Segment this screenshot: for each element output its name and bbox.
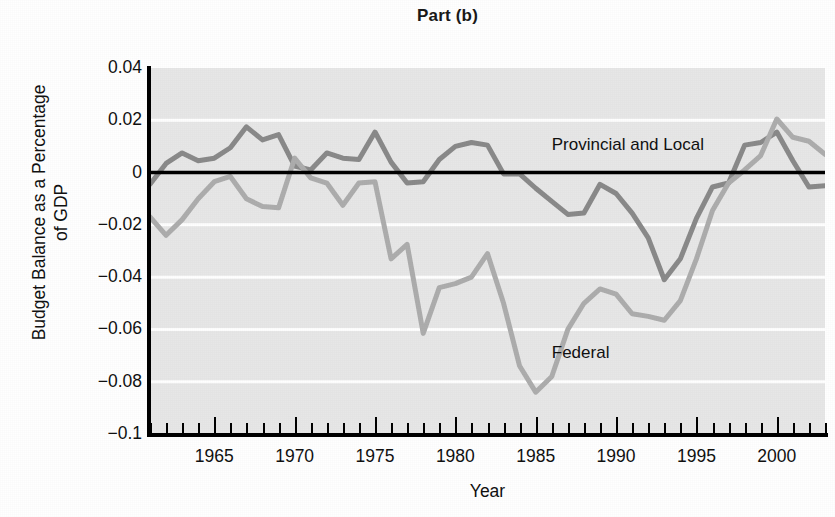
x-minor-tick bbox=[391, 423, 393, 434]
x-tick-label: 1985 bbox=[501, 446, 571, 467]
x-minor-tick bbox=[568, 423, 570, 434]
x-major-tick bbox=[696, 417, 698, 434]
x-minor-tick bbox=[600, 423, 602, 434]
x-minor-tick bbox=[182, 423, 184, 434]
x-minor-tick bbox=[504, 423, 506, 434]
x-minor-tick bbox=[648, 423, 650, 434]
x-tick-label: 1965 bbox=[179, 446, 249, 467]
x-tick-label: 1970 bbox=[260, 446, 330, 467]
x-minor-tick bbox=[439, 423, 441, 434]
x-tick-label: 1990 bbox=[581, 446, 651, 467]
x-minor-tick bbox=[745, 423, 747, 434]
x-minor-tick bbox=[632, 423, 634, 434]
x-minor-tick bbox=[809, 423, 811, 434]
x-minor-tick bbox=[423, 423, 425, 434]
x-minor-tick bbox=[520, 423, 522, 434]
x-minor-tick bbox=[359, 423, 361, 434]
x-minor-tick bbox=[664, 423, 666, 434]
x-minor-tick bbox=[552, 423, 554, 434]
x-major-tick bbox=[375, 417, 377, 434]
x-minor-tick bbox=[263, 423, 265, 434]
x-major-tick bbox=[777, 417, 779, 434]
x-tick-label: 2000 bbox=[742, 446, 812, 467]
x-major-tick bbox=[536, 417, 538, 434]
x-minor-tick bbox=[761, 423, 763, 434]
x-minor-tick bbox=[198, 423, 200, 434]
x-major-tick bbox=[295, 417, 297, 434]
x-minor-tick bbox=[246, 423, 248, 434]
x-tick-label: 1975 bbox=[340, 446, 410, 467]
x-minor-tick bbox=[407, 423, 409, 434]
x-minor-tick bbox=[150, 423, 152, 434]
x-tick-label: 1995 bbox=[661, 446, 731, 467]
x-minor-tick bbox=[488, 423, 490, 434]
x-major-tick bbox=[214, 417, 216, 434]
chart-figure: Part (b) Budget Balance as a Percentage … bbox=[0, 0, 835, 517]
x-major-tick bbox=[455, 417, 457, 434]
x-minor-tick bbox=[230, 423, 232, 434]
x-minor-tick bbox=[166, 423, 168, 434]
x-minor-tick bbox=[680, 423, 682, 434]
series-label-provincial-and-local: Provincial and Local bbox=[552, 135, 704, 155]
x-minor-tick bbox=[311, 423, 313, 434]
x-tick-label: 1980 bbox=[420, 446, 490, 467]
x-major-tick bbox=[616, 417, 618, 434]
x-minor-tick bbox=[584, 423, 586, 434]
x-minor-tick bbox=[471, 423, 473, 434]
x-minor-tick bbox=[729, 423, 731, 434]
x-minor-tick bbox=[713, 423, 715, 434]
x-minor-tick bbox=[327, 423, 329, 434]
x-axis-ticks: 19651970197519801985199019952000 bbox=[0, 0, 835, 517]
x-minor-tick bbox=[343, 423, 345, 434]
x-minor-tick bbox=[825, 423, 827, 434]
x-minor-tick bbox=[279, 423, 281, 434]
series-label-federal: Federal bbox=[552, 343, 610, 363]
x-minor-tick bbox=[793, 423, 795, 434]
